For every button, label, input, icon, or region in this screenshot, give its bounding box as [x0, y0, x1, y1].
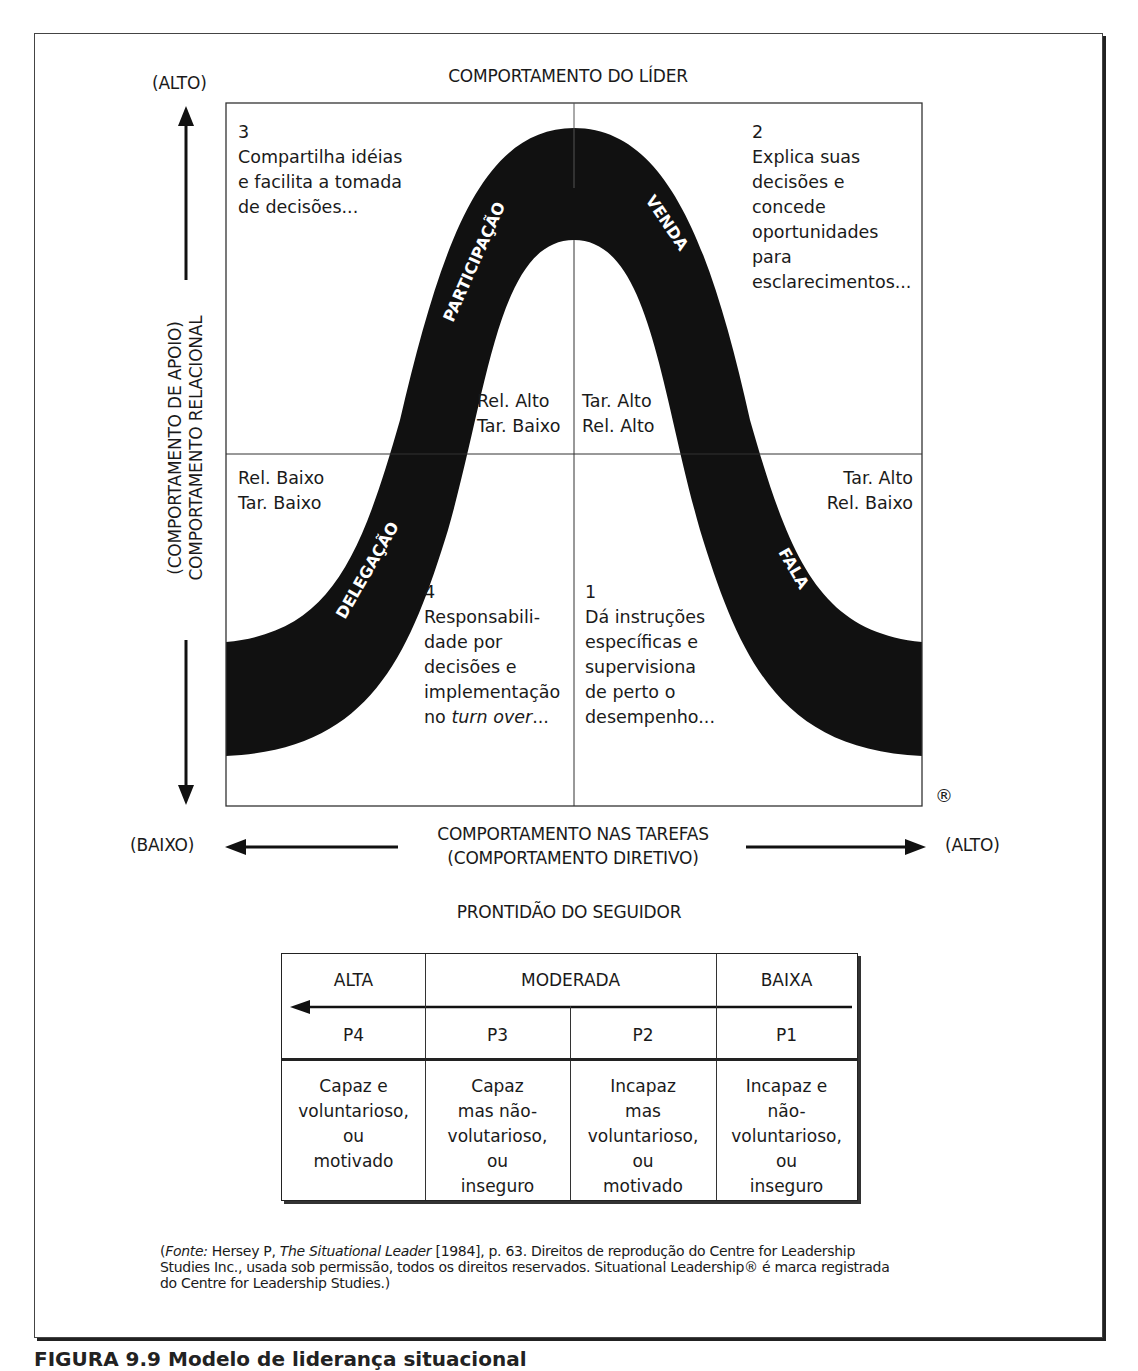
- x-axis-right-arrow-icon: [746, 839, 926, 855]
- quadrant-text-line: esclarecimentos...: [752, 270, 911, 295]
- text-suffix: ...: [532, 707, 549, 727]
- desc-line: inseguro: [448, 1174, 548, 1199]
- tag-line: Rel. Alto: [477, 389, 560, 414]
- fonte-label: Fonte:: [165, 1243, 208, 1259]
- x-axis-left-arrow-icon: [225, 839, 398, 855]
- quadrant-number: 1: [585, 580, 715, 605]
- quadrant-text-line: Dá instruções: [585, 605, 715, 630]
- desc-line: Capaz: [448, 1074, 548, 1099]
- registered-mark: ®: [935, 785, 953, 806]
- x-axis-low-label: (BAIXO): [130, 835, 194, 855]
- readiness-title-text: PRONTIDÃO DO SEGUIDOR: [457, 902, 682, 922]
- text-prefix: no: [424, 707, 451, 727]
- quadrant-text-line: concede: [752, 195, 911, 220]
- quadrant-text-line: para: [752, 245, 911, 270]
- quadrant-number: 4: [424, 580, 560, 605]
- code-p3: P3: [425, 1012, 570, 1058]
- desc-line: voluntarioso,: [298, 1099, 409, 1124]
- desc-line: motivado: [588, 1174, 699, 1199]
- desc-line: inseguro: [731, 1174, 842, 1199]
- quadrant-text-line: supervisiona: [585, 655, 715, 680]
- source-author: Hersey P,: [208, 1243, 280, 1259]
- tag-line: Tar. Alto: [582, 389, 655, 414]
- quadrant-4-description: 4 Responsabili- dade por decisões e impl…: [424, 580, 560, 730]
- desc-line: voluntarioso,: [588, 1124, 699, 1149]
- figure-caption: FIGURA 9.9 Modelo de liderança situacion…: [34, 1347, 527, 1371]
- quadrant-3-tag: Rel. Alto Tar. Baixo: [477, 389, 560, 439]
- description-p2: Incapaz mas voluntarioso, ou motivado: [570, 1060, 716, 1200]
- quadrant-3-description: 3 Compartilha idéias e facilita a tomada…: [238, 120, 402, 220]
- quadrant-2-tag: Tar. Alto Rel. Alto: [582, 389, 655, 439]
- desc-line: volutarioso,: [448, 1124, 548, 1149]
- desc-line: mas: [588, 1099, 699, 1124]
- quadrant-text-line: específicas e: [585, 630, 715, 655]
- x-axis-label: COMPORTAMENTO NAS TAREFAS (COMPORTAMENTO…: [398, 822, 748, 870]
- code-p4: P4: [282, 1012, 425, 1058]
- quadrant-1-tag: Tar. Alto Rel. Baixo: [827, 466, 913, 516]
- source-book-title: The Situational Leader: [280, 1243, 432, 1259]
- quadrant-number: 3: [238, 120, 402, 145]
- quadrant-text-line: decisões e: [424, 655, 560, 680]
- tag-line: Rel. Baixo: [827, 491, 913, 516]
- readiness-title: PRONTIDÃO DO SEGUIDOR: [0, 902, 1138, 922]
- description-p1: Incapaz e não- voluntarioso, ou inseguro: [716, 1060, 857, 1200]
- readiness-table: ALTA MODERADA BAIXA P4 P3 P2 P1 Capaz e …: [281, 953, 858, 1201]
- quadrant-4-tag: Rel. Baixo Tar. Baixo: [238, 466, 324, 516]
- y-axis-down-arrow-icon: [178, 640, 194, 805]
- y-axis-up-arrow-icon: [178, 106, 194, 280]
- tag-line: Rel. Alto: [582, 414, 655, 439]
- x-axis-high-label: (ALTO): [945, 835, 1000, 855]
- desc-line: ou: [448, 1149, 548, 1174]
- quadrant-2-description: 2 Explica suas decisões e concede oportu…: [752, 120, 911, 295]
- x-axis-label-line2: (COMPORTAMENTO DIRETIVO): [398, 846, 748, 870]
- quadrant-text-line: de perto o: [585, 680, 715, 705]
- y-axis-label: (COMPORTAMENTO DE APOIO) COMPORTAMENTO R…: [165, 315, 207, 580]
- source-line-1: (Fonte: Hersey P, The Situational Leader…: [160, 1243, 1020, 1259]
- desc-line: voluntarioso,: [731, 1124, 842, 1149]
- quadrant-text-line: Responsabili-: [424, 605, 560, 630]
- source-line-2: Studies Inc., usada sob permissão, todos…: [160, 1259, 1020, 1275]
- quadrant-text-line: implementação: [424, 680, 560, 705]
- quadrant-text-line: Compartilha idéias: [238, 145, 402, 170]
- tag-line: Tar. Baixo: [477, 414, 560, 439]
- y-axis-label-line1: (COMPORTAMENTO DE APOIO): [165, 315, 186, 580]
- source-line-3: do Centre for Leadership Studies.): [160, 1275, 1020, 1291]
- desc-line: ou: [588, 1149, 699, 1174]
- code-p1: P1: [716, 1012, 857, 1058]
- desc-line: motivado: [298, 1149, 409, 1174]
- quadrant-text-line: de decisões...: [238, 195, 402, 220]
- quadrant-1-description: 1 Dá instruções específicas e supervisio…: [585, 580, 715, 730]
- text-italic: turn over: [451, 707, 532, 727]
- description-p3: Capaz mas não- volutarioso, ou inseguro: [425, 1060, 570, 1200]
- source-rest: [1984], p. 63. Direitos de reprodução do…: [431, 1243, 855, 1259]
- quadrant-text-line: dade por: [424, 630, 560, 655]
- desc-line: ou: [298, 1124, 409, 1149]
- quadrant-text-line: Explica suas: [752, 145, 911, 170]
- desc-line: não-: [731, 1099, 842, 1124]
- quadrant-text-line: e facilita a tomada: [238, 170, 402, 195]
- quadrant-number: 2: [752, 120, 911, 145]
- tag-line: Rel. Baixo: [238, 466, 324, 491]
- y-axis-label-line2: COMPORTAMENTO RELACIONAL: [186, 315, 207, 580]
- desc-line: Incapaz: [588, 1074, 699, 1099]
- quadrant-text-line: decisões e: [752, 170, 911, 195]
- desc-line: Capaz e: [298, 1074, 409, 1099]
- source-note: (Fonte: Hersey P, The Situational Leader…: [160, 1243, 1020, 1291]
- quadrant-text-line: oportunidades: [752, 220, 911, 245]
- code-p2: P2: [570, 1012, 716, 1058]
- x-axis-label-line1: COMPORTAMENTO NAS TAREFAS: [398, 822, 748, 846]
- tag-line: Tar. Alto: [827, 466, 913, 491]
- tag-line: Tar. Baixo: [238, 491, 324, 516]
- description-p4: Capaz e voluntarioso, ou motivado: [282, 1060, 425, 1200]
- quadrant-text-line: no turn over...: [424, 705, 560, 730]
- desc-line: Incapaz e: [731, 1074, 842, 1099]
- desc-line: mas não-: [448, 1099, 548, 1124]
- desc-line: ou: [731, 1149, 842, 1174]
- quadrant-text-line: desempenho...: [585, 705, 715, 730]
